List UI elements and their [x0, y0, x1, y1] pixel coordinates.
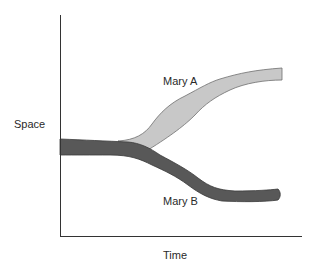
diagram-canvas — [0, 0, 313, 278]
mary-a-label: Mary A — [163, 75, 197, 87]
y-axis-label: Space — [14, 118, 45, 130]
x-axis-label: Time — [163, 249, 187, 261]
mary-a-band — [118, 68, 282, 150]
branching-timeline-diagram: Space Time Mary A Mary B — [0, 0, 313, 278]
mary-b-label: Mary B — [163, 195, 198, 207]
mary-b-band — [60, 139, 280, 202]
